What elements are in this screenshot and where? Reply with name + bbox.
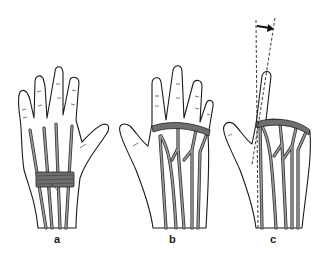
panel-label-c: c (270, 233, 276, 245)
hand-a (19, 67, 109, 228)
panel-label-b: b (169, 233, 176, 245)
hand-b (120, 66, 214, 228)
hand-c (224, 18, 311, 228)
panel-label-a: a (54, 233, 60, 245)
hand-illustration (0, 0, 329, 263)
